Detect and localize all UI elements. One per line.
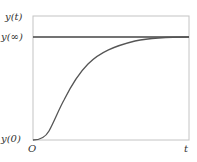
step-response-diagram: y(t) y(∞) y(0) O t [0, 0, 197, 162]
y-initial-label: y(0) [0, 133, 21, 144]
origin-label: O [28, 143, 36, 154]
x-axis-label: t [184, 143, 189, 154]
response-curve [33, 37, 189, 140]
y-final-label: y(∞) [0, 31, 23, 42]
plot-frame [33, 16, 189, 140]
y-axis-label: y(t) [4, 11, 23, 22]
